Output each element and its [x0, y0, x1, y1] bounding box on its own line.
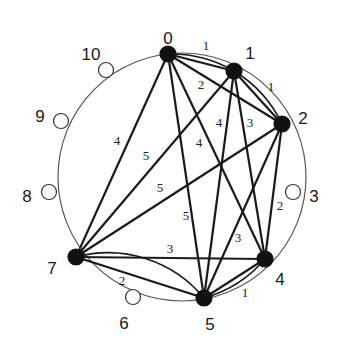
- node-label-4: 4: [275, 270, 284, 289]
- filled-node-2: [274, 116, 290, 132]
- edge-weight-label: 2: [119, 273, 126, 288]
- node-label-8: 8: [22, 187, 31, 206]
- edge-7-4: [76, 257, 265, 259]
- node-label-0: 0: [163, 29, 172, 48]
- filled-node-5: [196, 290, 212, 306]
- node-label-6: 6: [119, 314, 128, 333]
- edge-weight-label: 3: [235, 230, 242, 245]
- node-label-1: 1: [245, 44, 254, 63]
- node-label-3: 3: [309, 187, 318, 206]
- node-label-7: 7: [47, 259, 56, 278]
- edge-weight-label: 3: [167, 241, 174, 256]
- edge-weight-label: 1: [242, 285, 249, 300]
- edge-weight-label: 4: [196, 135, 203, 150]
- edge-weight-label: 2: [198, 77, 205, 92]
- open-node-10: [99, 63, 114, 78]
- edge-weight-label: 5: [157, 180, 164, 195]
- node-label-9: 9: [35, 107, 44, 126]
- edge-weight-label: 3: [247, 115, 254, 130]
- node-label-2: 2: [298, 109, 307, 128]
- filled-node-1: [226, 63, 242, 79]
- filled-node-4: [257, 251, 273, 267]
- edge-weight-label: 1: [268, 79, 275, 94]
- graph-diagram: 112454543532321 012345678910: [0, 0, 340, 348]
- filled-node-7: [68, 249, 84, 265]
- edge-7-5: [76, 257, 204, 298]
- open-node-9: [54, 114, 69, 129]
- node-label-10: 10: [82, 45, 101, 64]
- edges-layer: [76, 54, 282, 298]
- node-label-5: 5: [205, 315, 214, 334]
- open-node-8: [42, 185, 57, 200]
- edge-weight-label: 2: [277, 198, 284, 213]
- edge-weight-label: 5: [183, 208, 190, 223]
- edge-0-1: [168, 54, 234, 71]
- edge-1-7: [76, 71, 234, 257]
- edge-weight-label: 4: [114, 133, 121, 148]
- open-node-6: [126, 290, 141, 305]
- edge-weight-label: 1: [203, 38, 210, 53]
- edge-weight-label: 4: [216, 115, 223, 130]
- open-node-3: [286, 185, 301, 200]
- nodes-layer: [42, 46, 301, 306]
- edge-weight-label: 5: [143, 148, 150, 163]
